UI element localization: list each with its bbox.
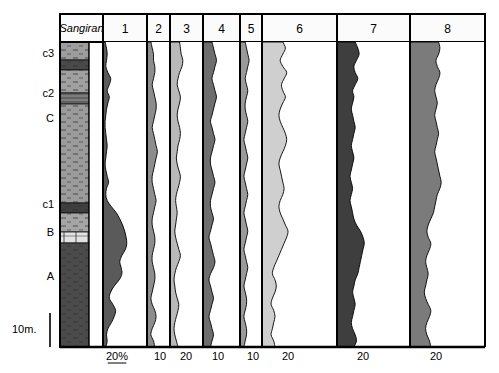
header-label-col-7: 7 — [370, 22, 377, 36]
data-column-7[interactable] — [337, 42, 410, 347]
depth-label-c2: c2 — [42, 87, 54, 99]
axis-tick-label-col-2: 10 — [154, 350, 166, 362]
litho-unit-strip-unit-top-light — [60, 42, 89, 60]
header-label-col-1: 1 — [122, 22, 129, 36]
stratigraphic-diagram: Sangiran12345678c3c2Cc1BA10m.20%10201010… — [0, 0, 499, 373]
header-label-sangiran: Sangiran — [59, 22, 103, 34]
depth-label-c3: c3 — [42, 47, 54, 59]
data-column-3[interactable] — [170, 42, 203, 347]
litho-unit-strip-unit-A-main — [60, 243, 89, 347]
litho-unit-strip-unit-C-main — [60, 104, 89, 203]
figure-canvas: Sangiran12345678c3c2Cc1BA10m.20%10201010… — [0, 0, 499, 373]
axis-tick-label-col-5: 10 — [247, 350, 259, 362]
depth-label-A: A — [47, 270, 55, 282]
header-label-col-5: 5 — [248, 22, 255, 36]
axis-tick-label-col-6: 20 — [282, 350, 294, 362]
litho-unit-strip-unit-B-band — [60, 232, 89, 243]
header-label-col-6: 6 — [296, 22, 303, 36]
litho-unit-strip-unit-c2-band — [60, 93, 89, 104]
axis-tick-label-col-7: 20 — [357, 350, 369, 362]
depth-label-C: C — [46, 112, 54, 124]
litho-unit-strip-unit-c1-dark — [60, 203, 89, 213]
axis-tick-label-col-4: 10 — [212, 350, 224, 362]
data-column-8[interactable] — [410, 42, 485, 347]
depth-label-B: B — [47, 226, 54, 238]
header-label-col-2: 2 — [155, 22, 162, 36]
litho-unit-strip-unit-mid-a — [60, 70, 89, 93]
data-column-2[interactable] — [147, 42, 170, 347]
data-column-4[interactable] — [203, 42, 240, 347]
header-label-col-4: 4 — [218, 22, 225, 36]
data-column-6[interactable] — [262, 42, 337, 347]
litho-unit-strip-unit-below-c1 — [60, 213, 89, 232]
scale-bar-label: 10m. — [12, 323, 36, 335]
litho-unit-strip-unit-c3-dark — [60, 60, 89, 70]
data-column-1[interactable] — [103, 42, 147, 347]
axis-tick-label-col-8: 20 — [430, 350, 442, 362]
litho-gutter — [89, 42, 103, 347]
axis-tick-label-col-3: 20 — [180, 350, 192, 362]
header-label-col-3: 3 — [183, 22, 190, 36]
data-column-5[interactable] — [240, 42, 262, 347]
header-label-col-8: 8 — [444, 22, 451, 36]
axis-tick-label-col-1: 20% — [106, 350, 128, 362]
depth-label-c1: c1 — [42, 198, 54, 210]
